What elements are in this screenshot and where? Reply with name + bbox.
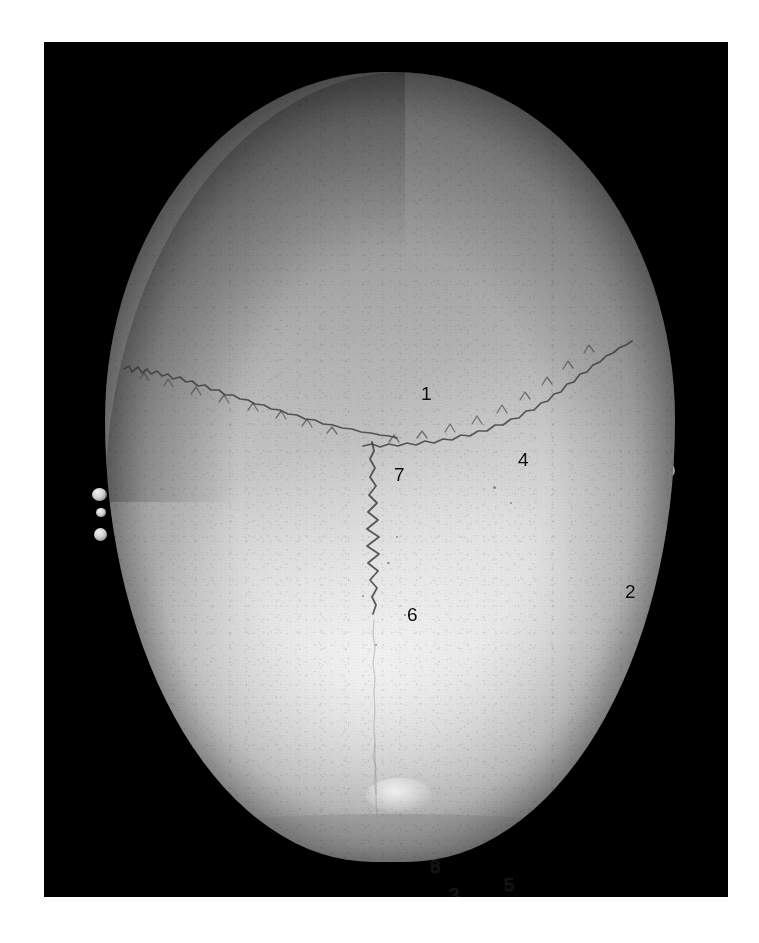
label-8-external-occipital-protuberance: 8 xyxy=(430,857,441,876)
bone-nodule-left-mid xyxy=(96,508,106,517)
specimen-stage: 1 4 7 2 6 8 3 5 xyxy=(44,42,728,897)
cranial-vault xyxy=(105,72,675,862)
label-5-occipital-squama: 5 xyxy=(504,875,515,894)
label-4-lambdoid-suture: 4 xyxy=(518,450,529,469)
label-3-nuchal-line: 3 xyxy=(449,885,460,897)
label-7-lambda: 7 xyxy=(394,465,405,484)
photograph-frame: 1 4 7 2 6 8 3 5 xyxy=(44,42,728,897)
label-1-parietal-bone: 1 xyxy=(421,384,432,403)
label-2-occipital-bone: 2 xyxy=(625,582,636,601)
label-6-sagittal-suture: 6 xyxy=(407,605,418,624)
bone-nodule-left-lower xyxy=(94,528,107,541)
bone-nodule-left-upper xyxy=(92,488,107,501)
figure-page: 1 4 7 2 6 8 3 5 xyxy=(0,0,759,943)
